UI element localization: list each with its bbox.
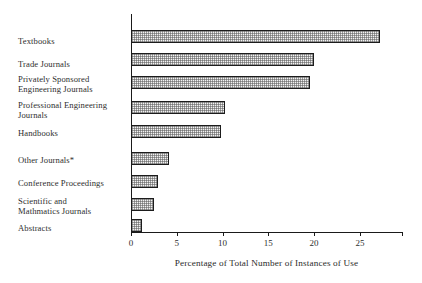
x-tick-label-25: 25 <box>355 238 364 248</box>
bar-privately-sponsored-engineering-journals <box>131 76 310 89</box>
x-tick-label-5: 5 <box>175 238 180 248</box>
bar-professional-engineering-journals <box>131 101 225 114</box>
category-label-textbooks: Textbooks <box>18 36 132 46</box>
x-tick-label-15: 15 <box>264 238 273 248</box>
x-tick-end <box>402 232 403 236</box>
x-tick-20 <box>314 232 315 236</box>
category-label-conference-proceedings: Conference Proceedings <box>18 178 132 188</box>
bar-other-journals <box>131 152 169 165</box>
bar-textbooks <box>131 30 380 43</box>
category-label-professional-engineering-journals: Professional Engineering Journals <box>18 100 132 121</box>
x-axis-title: Percentage of Total Number of Instances … <box>131 258 402 268</box>
category-label-handbooks: Handbooks <box>18 128 132 138</box>
x-tick-label-0: 0 <box>129 238 134 248</box>
x-tick-10 <box>223 232 224 236</box>
bar-scientific-and-mathmatics-journals <box>131 198 154 211</box>
x-tick-0 <box>131 232 132 236</box>
x-tick-5 <box>177 232 178 236</box>
bar-abstracts <box>131 219 142 232</box>
category-label-privately-sponsored-engineering-journals: Privately Sponsored Engineering Journals <box>18 74 132 95</box>
category-label-abstracts: Abstracts <box>18 223 132 233</box>
bar-conference-proceedings <box>131 175 158 188</box>
x-tick-label-20: 20 <box>310 238 319 248</box>
x-tick-label-10: 10 <box>218 238 227 248</box>
category-label-scientific-and-mathmatics-journals: Scientific and Mathmatics Journals <box>18 196 132 217</box>
x-tick-15 <box>268 232 269 236</box>
category-label-trade-journals: Trade Journals <box>18 59 132 69</box>
bar-trade-journals <box>131 53 314 66</box>
bar-handbooks <box>131 125 221 138</box>
chart-figure: Textbooks Trade Journals Privately Spons… <box>0 0 422 283</box>
x-tick-25 <box>360 232 361 236</box>
x-axis-line <box>131 232 402 233</box>
category-label-other-journals: Other Journals* <box>18 155 132 165</box>
plot-area: Textbooks Trade Journals Privately Spons… <box>0 0 422 283</box>
